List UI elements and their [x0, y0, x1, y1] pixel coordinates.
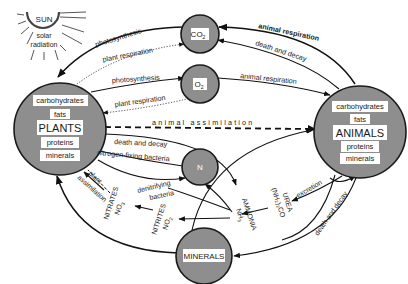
arrow-denitrifying — [98, 160, 185, 180]
plants-item-proteins: proteins — [47, 138, 74, 147]
n-label: N — [197, 163, 203, 172]
compound-nitrates: NITRATES NO3 — [102, 185, 130, 223]
animals-item-carbohydrates: carbohydrates — [336, 102, 384, 111]
svg-text:NO3: NO3 — [113, 200, 126, 216]
sun-subtitle-1: solar — [36, 32, 52, 39]
label-plant-respiration-co2: plant respiration — [102, 45, 154, 64]
arrow-nitrites-to-nitrates — [135, 206, 153, 210]
pool-o2: O2 — [181, 65, 219, 103]
arrow-ammonia-to-n — [205, 184, 232, 212]
plants-title: PLANTS — [39, 122, 82, 134]
pool-n: N — [182, 149, 218, 185]
label-plant-respiration-o2: plant respiration — [114, 93, 166, 109]
animals-item-minerals: minerals — [346, 154, 375, 163]
label-co2-photosynthesis: photosynthesis — [94, 26, 143, 49]
pool-co2: CO2 — [181, 15, 219, 53]
minerals-label: MINERALS — [184, 252, 225, 261]
label-death-decay-plants: death and decay — [114, 137, 168, 149]
animals-item-proteins: proteins — [347, 142, 374, 151]
arrow-plants-to-animals — [105, 127, 310, 129]
label-nitrogen-fixing-bacteria: nitrogen-fixing bacteria — [97, 148, 170, 163]
plants-item-minerals: minerals — [46, 151, 75, 160]
pool-plants: carbohydrates fats PLANTS proteins miner… — [14, 83, 106, 175]
arrow-ammonia-to-nitrites — [179, 218, 230, 219]
plants-item-carbohydrates: carbohydrates — [36, 96, 84, 105]
sun-subtitle-2: radiation — [31, 41, 58, 48]
svg-text:(NH₂)₂CO: (NH₂)₂CO — [270, 187, 287, 219]
label-animal-respiration-o2: animal respiration — [240, 71, 297, 86]
plants-item-fats: fats — [54, 110, 66, 119]
label-animal-assimilation: animal assimilation — [152, 118, 255, 127]
compound-urea: UREA (NH₂)₂CO — [270, 184, 296, 219]
svg-text:NH3: NH3 — [233, 208, 246, 223]
co2-label: CO — [191, 30, 203, 39]
pool-animals: carbohydrates fats ANIMALS proteins mine… — [314, 86, 406, 178]
compound-ammonia: AMMONIA NH3 — [231, 197, 259, 235]
animals-title: ANIMALS — [336, 127, 384, 139]
compound-nitrites: NITRITES NO2 — [150, 203, 177, 239]
svg-text:NO2: NO2 — [161, 215, 174, 231]
pool-minerals: MINERALS — [176, 228, 232, 284]
label-o2-photosynthesis: photosynthesis — [112, 73, 161, 85]
animals-item-fats: fats — [354, 115, 366, 124]
nutrient-cycle-diagram: SUN solar radiation — [0, 0, 408, 284]
sun-title: SUN — [36, 15, 53, 24]
label-denitrifying-2: bacteria — [149, 189, 175, 201]
